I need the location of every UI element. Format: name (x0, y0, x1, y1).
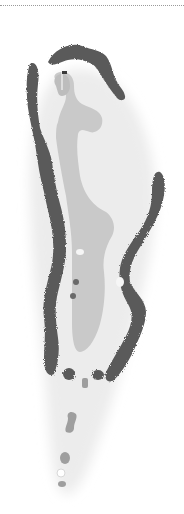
golf-hole-diagram (0, 0, 184, 514)
